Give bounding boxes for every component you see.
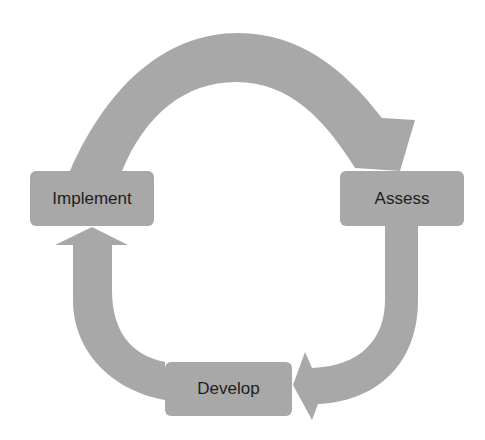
node-implement-label: Implement [52, 189, 131, 209]
node-develop: Develop [165, 362, 292, 416]
node-implement: Implement [30, 171, 154, 226]
arrow-implement-to-assess [70, 33, 415, 171]
node-assess-label: Assess [375, 189, 430, 209]
cycle-diagram: Implement Assess Develop [0, 0, 485, 440]
arrow-develop-to-implement [55, 227, 165, 400]
node-assess: Assess [340, 171, 464, 226]
arrow-assess-to-develop [293, 226, 418, 420]
node-develop-label: Develop [197, 379, 259, 399]
